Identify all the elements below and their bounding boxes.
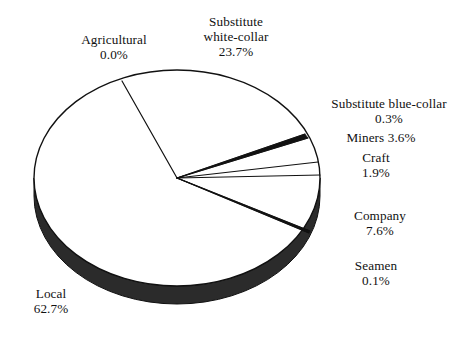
slice-label-substitute-white-collar-name2: white-collar (176, 29, 296, 44)
slice-label-local-value: 62.7% (8, 301, 94, 316)
slice-label-craft: Craft 1.9% (330, 150, 422, 180)
slice-label-local: Local 62.7% (8, 286, 94, 316)
slice-label-miners-name: Miners (346, 130, 384, 145)
slice-label-seamen: Seamen 0.1% (328, 258, 424, 288)
slice-label-company: Company 7.6% (326, 208, 434, 238)
slice-label-seamen-name: Seamen (328, 258, 424, 273)
slice-label-company-value: 7.6% (326, 223, 434, 238)
slice-label-local-name: Local (8, 286, 94, 301)
slice-label-craft-value: 1.9% (330, 165, 422, 180)
slice-label-miners: Miners 3.6% (316, 130, 446, 145)
slice-label-craft-name: Craft (330, 150, 422, 165)
slice-label-miners-value: 3.6% (388, 130, 416, 145)
slice-label-agricultural-name: Agricultural (62, 32, 166, 47)
slice-label-company-name: Company (326, 208, 434, 223)
slice-label-substitute-blue-collar: Substitute blue-collar 0.3% (306, 96, 472, 126)
slice-label-substitute-white-collar: Substitute white-collar 23.7% (176, 14, 296, 59)
slice-label-agricultural-value: 0.0% (62, 47, 166, 62)
slice-label-agricultural: Agricultural 0.0% (62, 32, 166, 62)
slice-label-seamen-value: 0.1% (328, 273, 424, 288)
slice-label-substitute-blue-collar-name: Substitute blue-collar (306, 96, 472, 111)
pie-chart: Agricultural 0.0% Substitute white-colla… (0, 0, 474, 346)
slice-label-substitute-blue-collar-value: 0.3% (306, 111, 472, 126)
slice-label-substitute-white-collar-name: Substitute (176, 14, 296, 29)
slice-label-substitute-white-collar-value: 23.7% (176, 44, 296, 59)
